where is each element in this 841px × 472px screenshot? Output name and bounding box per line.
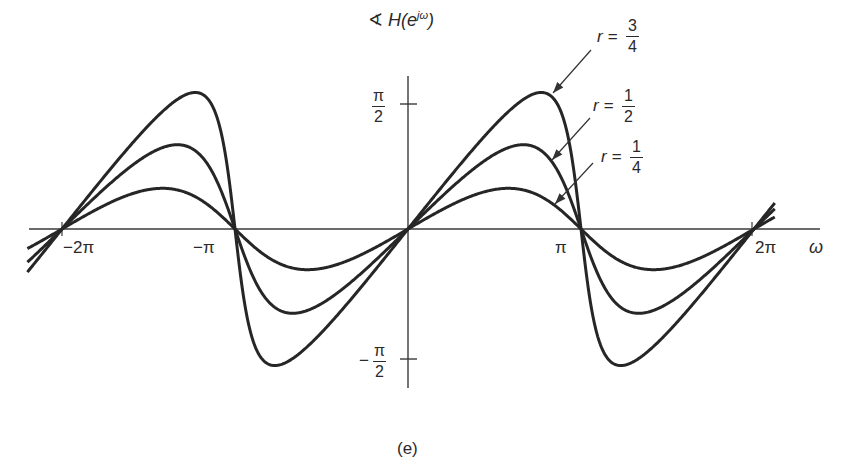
y-label-main: H(e: [388, 10, 417, 30]
x-tick-label-pi: π: [555, 239, 567, 256]
annotation-r-3-4-fraction: 3 4: [626, 18, 639, 55]
tick-num: π: [374, 343, 385, 359]
annotation-r-1-4-fraction: 1 4: [630, 139, 643, 176]
frac-num: 1: [632, 139, 641, 155]
y-label-sup: jω: [417, 9, 428, 21]
fraction-bar: [622, 106, 635, 107]
y-axis-label: ∢ H(ejω): [368, 10, 434, 29]
frac-den: 4: [628, 39, 637, 55]
x-axis-label-omega: ω: [809, 238, 823, 256]
tick-num: π: [373, 88, 384, 104]
tick-den: 2: [375, 364, 384, 380]
angle-icon: ∢: [368, 10, 383, 30]
y-label-close: ): [428, 10, 434, 30]
fraction-bar: [372, 106, 385, 107]
annotation-r-1-2-fraction: 1 2: [622, 88, 635, 125]
x-tick-label-2pi: 2π: [755, 239, 776, 256]
y-tick-label-pi-over-2: π 2: [372, 88, 385, 125]
annotation-r-1-4-label: r =: [601, 148, 621, 165]
x-tick-label-neg-pi: −π: [193, 239, 215, 256]
figure-caption: (e): [397, 440, 418, 457]
y-tick-sign: −: [359, 352, 369, 369]
fraction-bar: [630, 157, 643, 158]
x-tick-label-neg-2pi: −2π: [63, 239, 94, 256]
tick-den: 2: [374, 109, 383, 125]
arrows-group: [552, 50, 593, 204]
frac-den: 4: [632, 160, 641, 176]
frac-num: 3: [628, 18, 637, 34]
fraction-bar: [626, 36, 639, 37]
frac-den: 2: [624, 109, 633, 125]
phase-plot: [0, 0, 841, 472]
annotation-r-1-2-label: r =: [593, 97, 613, 114]
frac-num: 1: [624, 88, 633, 104]
annotation-r-3-4-label: r =: [597, 28, 617, 45]
y-tick-label-neg-pi-over-2: π 2: [373, 343, 386, 380]
fraction-bar: [373, 361, 386, 362]
